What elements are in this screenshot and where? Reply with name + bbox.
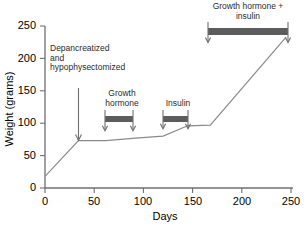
annotation-depancreatized: Depancreatized and hypophysectomized xyxy=(50,44,146,73)
x-axis-ticks xyxy=(45,188,291,193)
x-tick-label-0: 0 xyxy=(30,196,60,207)
growth-hormone-bar xyxy=(105,116,133,122)
x-tick-label-100: 100 xyxy=(128,196,158,207)
y-axis-ticks xyxy=(40,26,45,188)
chart-plot-area xyxy=(0,0,307,227)
growth-hormone-insulin-bar xyxy=(208,28,288,35)
x-tick-label-150: 150 xyxy=(178,196,208,207)
annotation-insulin: Insulin xyxy=(157,99,199,109)
y-tick-label-0: 0 xyxy=(4,182,36,193)
y-tick-label-200: 200 xyxy=(4,53,36,64)
x-axis-title: Days xyxy=(120,210,210,222)
insulin-bar xyxy=(163,116,188,122)
y-tick-label-250: 250 xyxy=(4,20,36,31)
annotation-growth-hormone-insulin: Growth hormone + insulin xyxy=(198,2,298,21)
x-tick-label-200: 200 xyxy=(227,196,257,207)
y-axis-title: Weight (grams) xyxy=(3,66,15,152)
x-tick-label-50: 50 xyxy=(79,196,109,207)
depancreatized-arrow-icon xyxy=(76,88,82,141)
annotation-growth-hormone: Growth hormone xyxy=(99,89,145,108)
growth-hormone-marker xyxy=(102,110,135,131)
insulin-marker xyxy=(160,110,190,129)
x-tick-label-250: 250 xyxy=(276,196,306,207)
chart-figure: 0 50 100 150 200 250 0 50 100 150 200 25… xyxy=(0,0,307,227)
growth-hormone-insulin-marker xyxy=(205,22,290,43)
